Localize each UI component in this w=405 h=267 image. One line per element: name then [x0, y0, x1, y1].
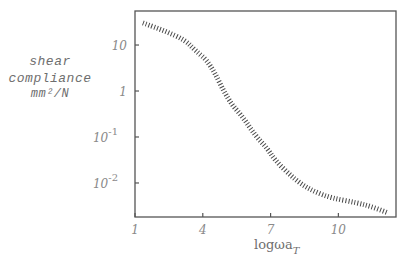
- x-tick-label: 7: [267, 223, 275, 237]
- plot-frame: [135, 11, 396, 217]
- x-tick-label: 4: [198, 223, 207, 237]
- x-tick-label: 1: [131, 223, 139, 237]
- y-tick-label: 10-2: [93, 172, 118, 191]
- chart: 14710 10110-110-2 logωaT: [0, 0, 405, 267]
- series-line: [143, 23, 388, 213]
- x-tick-label: 10: [331, 223, 347, 237]
- x-axis-label: logωaT: [254, 237, 301, 256]
- y-tick-label: 1: [119, 85, 127, 99]
- y-tick-label: 10-1: [93, 126, 118, 145]
- y-tick-label: 10: [112, 39, 128, 53]
